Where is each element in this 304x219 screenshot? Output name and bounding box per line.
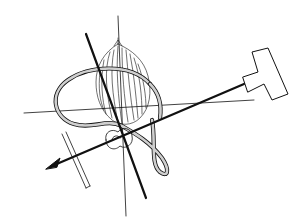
diagram-canvas [0, 0, 304, 219]
steep-axis [86, 34, 146, 198]
diagram-figure [0, 0, 304, 219]
t-block-connector [243, 48, 288, 100]
arrowhead-icon [46, 158, 60, 169]
